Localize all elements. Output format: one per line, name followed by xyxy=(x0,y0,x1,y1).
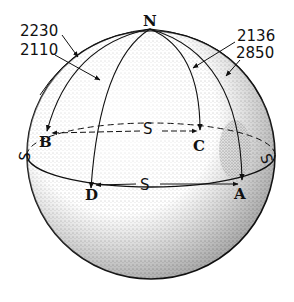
point-label-a: A xyxy=(233,185,246,203)
sphere xyxy=(27,31,275,279)
shadow-patch xyxy=(219,120,251,180)
point-label-d: D xyxy=(85,186,98,204)
globe-diagram: N 2230 2110 2136 2850 B C D A S S S S xyxy=(0,0,294,302)
equator-label-front: S xyxy=(140,176,150,194)
equator-label-back: S xyxy=(143,120,153,138)
point-label-c: C xyxy=(193,137,205,155)
distance-label-2110: 2110 xyxy=(20,41,58,59)
pole-label-n: N xyxy=(143,12,157,30)
distance-label-2136: 2136 xyxy=(237,27,275,45)
point-label-b: B xyxy=(39,133,52,151)
distance-label-2230: 2230 xyxy=(20,22,58,40)
distance-label-2850: 2850 xyxy=(236,44,274,62)
